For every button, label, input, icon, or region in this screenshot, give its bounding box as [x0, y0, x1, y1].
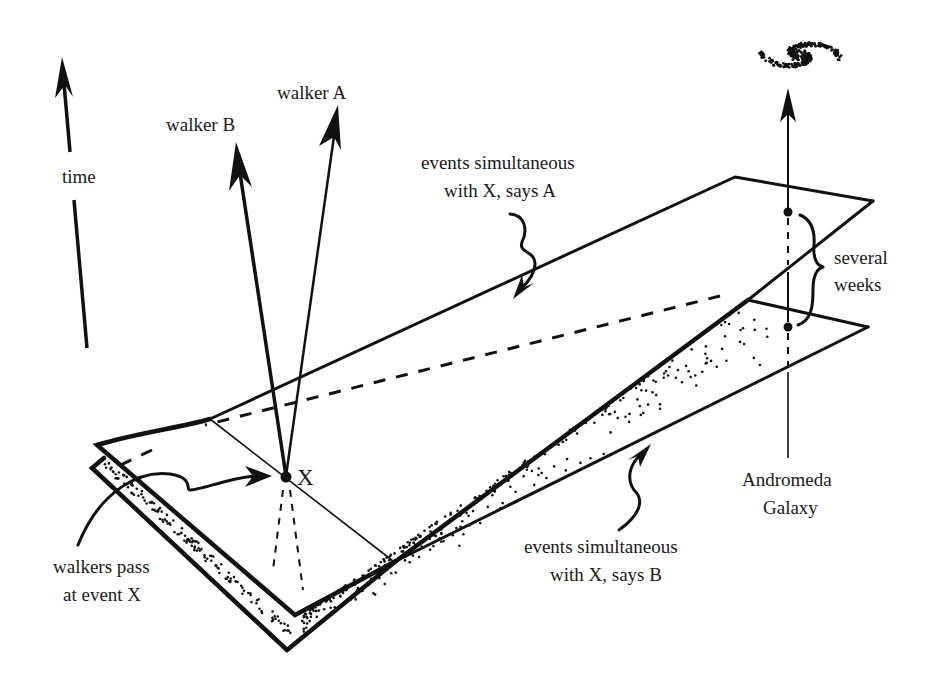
- several-weeks-brace-icon: [798, 215, 823, 325]
- time-arrow-icon: [55, 57, 87, 348]
- andromeda-label-line1: Andromeda: [742, 469, 832, 490]
- plane-b-label-line1: events simultaneous: [524, 536, 678, 557]
- plane-a-label-line2: with X, says A: [444, 180, 556, 201]
- andromeda-event-b-dot: [784, 323, 793, 332]
- walkers-pass-label-line2: at event X: [63, 584, 141, 605]
- time-label: time: [62, 166, 96, 187]
- plane-b-pointer-icon: [619, 444, 651, 530]
- andromeda-event-a-dot: [784, 208, 793, 217]
- spacetime-diagram: time walker B walker A X: [0, 0, 946, 694]
- plane-a-label-line1: events simultaneous: [421, 152, 575, 173]
- walker-b-label: walker B: [166, 114, 235, 135]
- past-lines: [273, 490, 303, 590]
- plane-a-pointer-icon: [510, 214, 535, 299]
- event-x-dot: [281, 472, 292, 483]
- several-label: several: [834, 247, 888, 268]
- event-x-label: X: [297, 465, 314, 490]
- walker-a-label: walker A: [277, 82, 346, 103]
- simultaneity-plane-a: [97, 177, 873, 615]
- walker-a-worldline: [286, 105, 341, 476]
- walkers-pass-label-line1: walkers pass: [53, 556, 150, 577]
- weeks-label: weeks: [834, 274, 881, 295]
- andromeda-label-line2: Galaxy: [763, 497, 818, 518]
- spiral-galaxy-icon: [758, 41, 842, 69]
- plane-b-label-line2: with X, says B: [550, 564, 662, 585]
- walker-b-worldline: [229, 142, 286, 476]
